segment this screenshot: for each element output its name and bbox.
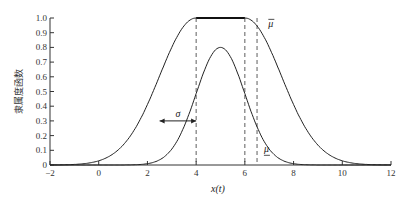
annotations: σμμ — [160, 18, 275, 165]
y-tick-label: 0.3 — [36, 116, 48, 126]
y-tick-label: 0 — [43, 160, 48, 170]
x-tick-label: 6 — [243, 168, 248, 178]
y-tick-label: 0.5 — [36, 87, 48, 97]
y-tick-label: 0.6 — [36, 72, 48, 82]
arrow-head-right-icon — [191, 118, 196, 123]
sigma-label: σ — [175, 108, 181, 119]
membership-function-chart: −202468101200.10.20.30.40.50.60.70.80.91… — [0, 0, 410, 200]
x-tick-label: 8 — [291, 168, 296, 178]
x-tick-label: 2 — [145, 168, 150, 178]
y-tick-label: 0.2 — [36, 131, 47, 141]
arrow-head-left-icon — [160, 118, 165, 123]
x-tick-label: 0 — [96, 168, 101, 178]
x-tick-label: 12 — [387, 168, 396, 178]
upper-membership-curve — [50, 18, 391, 165]
y-tick-label: 0.7 — [36, 57, 48, 67]
x-tick-label: 10 — [338, 168, 348, 178]
axes: −202468101200.10.20.30.40.50.60.70.80.91… — [36, 13, 396, 178]
y-axis-title: 隶属度函数 — [13, 69, 24, 114]
x-tick-label: 4 — [194, 168, 199, 178]
upper-mu-label: μ — [267, 18, 273, 29]
y-tick-label: 1.0 — [36, 13, 48, 23]
curves — [50, 18, 391, 165]
lower-membership-curve — [50, 47, 391, 165]
y-tick-label: 0.4 — [36, 101, 48, 111]
y-tick-label: 0.1 — [36, 145, 47, 155]
y-tick-label: 0.9 — [36, 28, 48, 38]
y-tick-label: 0.8 — [36, 42, 48, 52]
lower-mu-label: μ — [263, 143, 269, 154]
x-axis-title: x(t) — [210, 183, 226, 195]
